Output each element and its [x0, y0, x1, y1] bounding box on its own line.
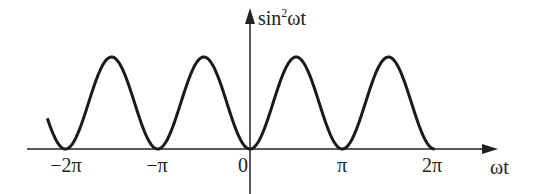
x-axis-arrow-icon [482, 144, 498, 154]
sin-squared-curve [47, 57, 434, 149]
tick-label-zero: 0 [238, 154, 248, 176]
tick-label-pi: π [337, 154, 347, 176]
tick-label-2pi: 2π [422, 154, 442, 176]
tick-label-neg2pi: −2π [50, 154, 81, 176]
y-axis-arrow-icon [245, 8, 255, 24]
x-axis-label: ωt [490, 156, 509, 178]
tick-label-negpi: −π [146, 154, 167, 176]
y-axis-label: sin2ωt [258, 6, 307, 29]
sin-squared-chart: sin2ωt −2π −π 0 π 2π ωt [0, 0, 544, 194]
